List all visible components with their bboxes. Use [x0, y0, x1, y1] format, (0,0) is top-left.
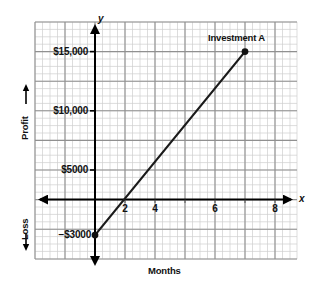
grid-major — [35, 22, 297, 259]
y-tick-label-10000: $10,000 — [33, 106, 88, 116]
x-tick-label-8: 8 — [268, 204, 282, 214]
x-tick-label-4: 4 — [148, 204, 162, 214]
y-tick-label-15000: $15,000 — [33, 47, 88, 57]
profit-arrow-icon — [23, 84, 29, 104]
y-axis-label-profit: Profit — [20, 116, 30, 140]
x-axis-letter: x — [299, 194, 304, 204]
y-tick-label-5000: $5000 — [33, 165, 88, 175]
data-point-start — [92, 232, 99, 239]
x-axis-label-months: Months — [148, 266, 181, 276]
y-axis-label-loss: Loss — [20, 219, 30, 240]
y-axis-letter: y — [98, 14, 103, 24]
series-annotation-investment-a: Investment A — [208, 33, 265, 43]
data-point-end — [242, 48, 249, 55]
y-tick-label-neg3000: −$3000 — [33, 230, 91, 240]
x-tick-label-2: 2 — [118, 204, 132, 214]
investment-line-chart: $15,000 $10,000 $5000 −$3000 2 4 6 8 x y… — [0, 0, 318, 288]
x-tick-label-6: 6 — [208, 204, 222, 214]
chart-canvas — [0, 0, 318, 288]
